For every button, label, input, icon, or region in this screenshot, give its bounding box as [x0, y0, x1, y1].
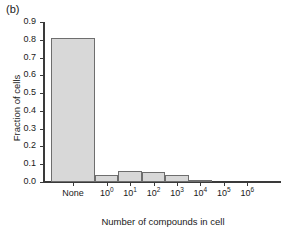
y-tick: 0.1	[40, 164, 43, 165]
x-tick-label: 106	[240, 188, 254, 199]
x-tick	[200, 183, 201, 186]
x-tick-label: 104	[194, 188, 208, 199]
y-tick: 0.9	[40, 22, 43, 23]
bar	[95, 175, 118, 182]
figure-panel-b: (b) Fraction of cells Number of compound…	[0, 0, 287, 237]
x-tick	[224, 183, 225, 186]
bar	[189, 180, 212, 182]
y-axis-title: Fraction of cells	[12, 48, 22, 168]
y-tick-label: 0.8	[23, 34, 36, 45]
x-tick	[154, 183, 155, 186]
y-tick-label: 0.9	[23, 16, 36, 27]
x-tick-label: None	[62, 188, 84, 199]
y-tick-label: 0.7	[23, 52, 36, 63]
x-tick-label: 105	[217, 188, 231, 199]
bar	[165, 175, 188, 182]
y-tick-label: 0.1	[23, 158, 36, 169]
x-tick	[73, 183, 74, 186]
y-tick-label: 0.6	[23, 69, 36, 80]
x-tick	[130, 183, 131, 186]
x-axis-title: Number of compounds in cell	[43, 216, 283, 227]
y-tick: 0.0	[40, 182, 43, 183]
x-tick-label: 101	[123, 188, 137, 199]
plot-area: 0.00.10.20.30.40.50.60.70.80.9 None10010…	[43, 22, 281, 182]
bar	[142, 172, 165, 182]
x-tick	[177, 183, 178, 186]
x-tick	[247, 183, 248, 186]
y-tick-label: 0.3	[23, 123, 36, 134]
x-tick-label: 102	[147, 188, 161, 199]
y-tick-label: 0.5	[23, 87, 36, 98]
y-tick-label: 0.2	[23, 140, 36, 151]
x-tick-label: 103	[170, 188, 184, 199]
bar	[118, 171, 141, 182]
y-tick: 0.7	[40, 58, 43, 59]
y-tick: 0.3	[40, 129, 43, 130]
y-tick: 0.5	[40, 93, 43, 94]
x-tick-label: 100	[100, 188, 114, 199]
y-axis-line	[43, 22, 45, 182]
bar	[51, 38, 95, 182]
y-tick-label: 0.4	[23, 105, 36, 116]
panel-label: (b)	[6, 3, 19, 15]
y-tick-label: 0.0	[23, 176, 36, 187]
y-tick: 0.8	[40, 40, 43, 41]
y-tick: 0.6	[40, 75, 43, 76]
y-tick: 0.2	[40, 146, 43, 147]
y-tick: 0.4	[40, 111, 43, 112]
x-tick	[107, 183, 108, 186]
